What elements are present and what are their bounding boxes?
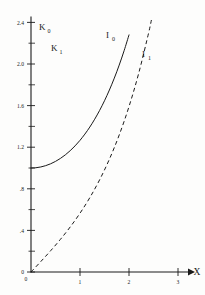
curve-label-k0-subscript: 0 xyxy=(48,28,51,34)
x-tick-label-2: 2 xyxy=(128,279,131,285)
curve-label-i1: I 1 xyxy=(142,49,151,61)
y-tick-label-2-4: 2.4 xyxy=(17,20,24,26)
curve-label-i1-text: I xyxy=(142,49,145,59)
curve-label-i0: I 0 xyxy=(106,30,115,42)
x-tick-label-3: 3 xyxy=(177,279,180,285)
curve-label-k0: K 0 xyxy=(39,22,51,34)
y-tick-label-0-8: .8 xyxy=(20,186,24,192)
curve-label-k1-subscript: 1 xyxy=(60,49,63,55)
plot-canvas: 0 .4 .8 1.2 1.6 2.0 2.4 1 2 3 0 X K xyxy=(0,0,205,295)
y-tick-label-1-6: 1.6 xyxy=(17,103,24,109)
origin-label: 0 xyxy=(25,276,28,282)
curve-label-i0-subscript: 0 xyxy=(112,36,115,42)
y-tick-label-2-0: 2.0 xyxy=(17,61,24,67)
x-tick-label-1: 1 xyxy=(79,279,82,285)
y-tick-label-0-4: .4 xyxy=(20,228,24,234)
curve-label-k1: K 1 xyxy=(51,43,63,55)
curve-label-i0-text: I xyxy=(106,30,109,40)
y-tick-label-0: 0 xyxy=(21,269,24,275)
curves-group xyxy=(31,20,151,272)
bessel-function-chart: 0 .4 .8 1.2 1.6 2.0 2.4 1 2 3 0 X K xyxy=(0,0,205,295)
x-axis-title: X xyxy=(194,267,201,277)
curve-label-k0-text: K xyxy=(39,22,46,32)
curve-label-i1-subscript: 1 xyxy=(148,55,151,61)
curve-i1 xyxy=(31,20,151,272)
curve-label-k1-text: K xyxy=(51,43,58,53)
y-tick-label-1-2: 1.2 xyxy=(17,144,24,150)
